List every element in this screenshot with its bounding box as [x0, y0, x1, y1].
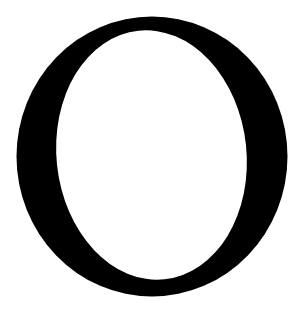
- letter-o-svg: [0, 0, 304, 309]
- letter-o-glyph: [0, 0, 304, 309]
